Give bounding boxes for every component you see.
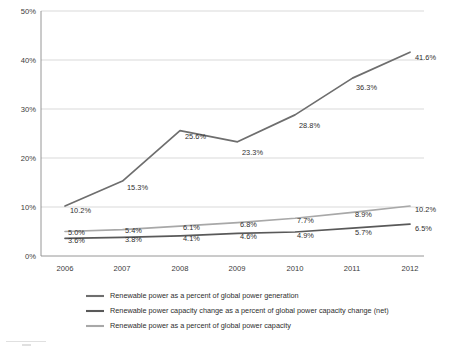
data-label-capacity-2009: 6.8% <box>240 220 257 229</box>
data-label-capacity-2008: 6.1% <box>183 223 200 232</box>
x-axis-tick-labels: 2006 2007 2008 2009 2010 2011 2012 <box>57 264 419 273</box>
xtick-label-2007: 2007 <box>114 264 131 273</box>
ytick-label-0: 0% <box>25 252 36 261</box>
data-label-capacity-change-2008: 4.1% <box>183 234 200 243</box>
data-label-generation-2012: 41.6% <box>415 53 436 62</box>
legend-label-capacity[interactable]: Renewable power as a percent of global p… <box>110 321 291 330</box>
data-label-generation-2011: 36.3% <box>356 83 377 92</box>
gridlines <box>41 11 424 207</box>
xtick-label-2012: 2012 <box>402 264 419 273</box>
data-label-generation-2007: 15.3% <box>127 183 148 192</box>
ytick-label-30: 30% <box>21 105 36 114</box>
xtick-label-2011: 2011 <box>344 264 360 273</box>
ytick-label-50: 50% <box>21 7 36 16</box>
data-label-capacity-change-2007: 3.8% <box>125 235 142 244</box>
data-label-generation-2010: 28.8% <box>299 121 320 130</box>
xtick-label-2008: 2008 <box>172 264 189 273</box>
data-label-capacity-2011: 8.9% <box>355 210 372 219</box>
ytick-label-20: 20% <box>21 154 36 163</box>
legend-label-generation[interactable]: Renewable power as a percent of global p… <box>110 291 299 300</box>
axes <box>41 11 424 256</box>
data-label-generation-2008: 25.6% <box>185 132 206 141</box>
page-edge-artifact <box>6 341 46 347</box>
data-label-capacity-2010: 7.7% <box>297 216 314 225</box>
data-label-capacity-change-2010: 4.9% <box>297 231 314 240</box>
xtick-label-2006: 2006 <box>57 264 74 273</box>
series-line-generation <box>65 52 410 206</box>
data-label-capacity-change-2006: 3.6% <box>68 236 85 245</box>
ytick-label-40: 40% <box>21 56 36 65</box>
xtick-label-2009: 2009 <box>229 264 246 273</box>
xtick-label-2010: 2010 <box>287 264 304 273</box>
data-label-capacity-change-2009: 4.6% <box>240 232 257 241</box>
artifact-mark-1 <box>6 341 46 342</box>
line-chart: 50% 40% 30% 20% 10% 0% 2006 2007 2008 20… <box>0 0 449 350</box>
data-label-capacity-2012: 10.2% <box>415 205 436 214</box>
chart-container: 50% 40% 30% 20% 10% 0% 2006 2007 2008 20… <box>0 0 449 350</box>
data-label-generation-2006: 10.2% <box>70 206 91 215</box>
artifact-mark-2 <box>22 344 31 345</box>
data-label-capacity-2007: 5.4% <box>125 226 142 235</box>
legend: Renewable power as a percent of global p… <box>86 291 389 330</box>
y-axis-tick-labels: 50% 40% 30% 20% 10% 0% <box>21 7 36 261</box>
data-label-capacity-change-2011: 5.7% <box>355 228 372 237</box>
legend-label-capacity-change-net[interactable]: Renewable power capacity change as a per… <box>110 306 389 315</box>
data-label-generation-2009: 23.3% <box>242 148 263 157</box>
data-label-capacity-change-2012: 6.5% <box>415 224 432 233</box>
ytick-label-10: 10% <box>21 203 36 212</box>
